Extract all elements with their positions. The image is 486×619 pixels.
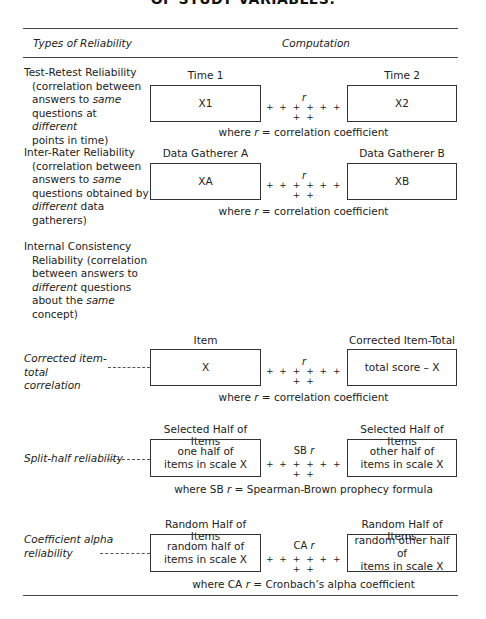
split-half-plus-connector: + + + + + + + +	[262, 459, 346, 479]
inter-rater-right-box: XB	[347, 163, 457, 200]
alpha-ca-r-symbol: CA r	[262, 540, 346, 551]
split-half-caption: where SB r = Spearman-Brown prophecy for…	[150, 483, 457, 495]
split-half-sb-r-symbol: SB r	[262, 445, 346, 456]
label-inter-rater: Inter-Rater Reliability (correlation bet…	[24, 146, 154, 227]
test-retest-right-box: X2	[347, 85, 457, 122]
label-test-retest: Test-Retest Reliability (correlation bet…	[24, 66, 144, 147]
item-total-right-heading: Corrected Item-Total	[347, 334, 457, 346]
test-retest-left-heading: Time 1	[150, 69, 261, 81]
alpha-dashed-leader	[100, 553, 150, 554]
item-total-left-heading: Item	[150, 334, 261, 346]
label-corrected-item-total: Corrected item-total correlation	[24, 352, 124, 393]
test-retest-caption: where r = correlation coefficient	[150, 126, 457, 138]
inter-rater-caption: where r = correlation coefficient	[150, 205, 457, 217]
table-title: OF STUDY VARIABLES.	[0, 0, 486, 7]
inter-rater-left-box: XA	[150, 163, 261, 200]
test-retest-right-heading: Time 2	[347, 69, 457, 81]
label-internal-consistency: Internal Consistency Reliability (correl…	[24, 240, 154, 321]
alpha-caption: where CA r = Cronbach’s alpha coefficien…	[150, 578, 457, 590]
inter-rater-left-heading: Data Gatherer A	[150, 147, 261, 159]
item-total-plus-connector: + + + + + + + +	[262, 366, 346, 386]
test-retest-plus-connector: + + + + + + + +	[262, 102, 346, 122]
item-total-left-box: X	[150, 349, 261, 386]
alpha-plus-connector: + + + + + + + +	[262, 554, 346, 574]
header-types-of-reliability: Types of Reliability	[33, 37, 132, 49]
label-coefficient-alpha: Coefficient alpha reliability	[24, 533, 124, 560]
alpha-right-box: random other half ofitems in scale X	[347, 534, 457, 572]
test-retest-left-box: X1	[150, 85, 261, 122]
bottom-rule	[23, 595, 458, 596]
top-rule	[23, 28, 458, 29]
split-half-dashed-leader	[107, 459, 150, 460]
alpha-left-box: random half ofitems in scale X	[150, 534, 261, 572]
item-total-right-box: total score – X	[347, 349, 457, 386]
item-total-dashed-leader	[108, 367, 150, 368]
split-half-right-box: other half ofitems in scale X	[347, 439, 457, 477]
split-half-left-box: one half ofitems in scale X	[150, 439, 261, 477]
inter-rater-plus-connector: + + + + + + + +	[262, 180, 346, 200]
header-computation: Computation	[282, 37, 350, 49]
item-total-caption: where r = correlation coefficient	[150, 391, 457, 403]
header-rule	[23, 57, 458, 58]
inter-rater-right-heading: Data Gatherer B	[347, 147, 457, 159]
